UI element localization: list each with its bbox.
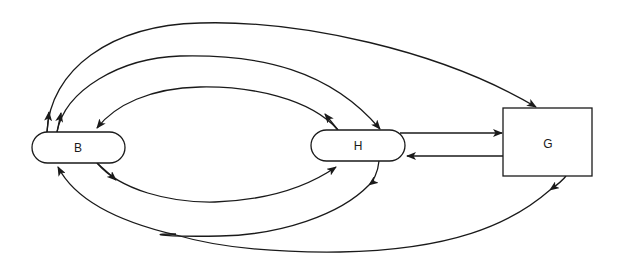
flow-diagram: B H G — [0, 0, 625, 265]
node-h: H — [311, 130, 405, 161]
edge-h-to-b-top — [97, 87, 338, 130]
edge-b-to-g-outer — [47, 23, 536, 132]
node-h-label: H — [354, 139, 363, 153]
node-b-label: B — [74, 141, 82, 155]
edge-h-to-b-bottom — [160, 161, 379, 236]
node-b: B — [32, 132, 125, 163]
node-g-label: G — [543, 137, 552, 151]
edge-b-to-h-top — [57, 56, 380, 132]
edge-b-to-h-bottom — [97, 163, 336, 202]
node-g: G — [503, 108, 592, 176]
edge-g-to-b-bottom — [58, 167, 566, 252]
